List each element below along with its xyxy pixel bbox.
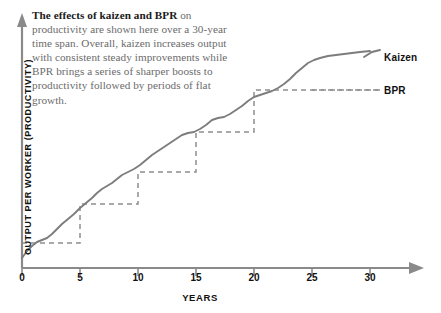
chart-caption: The effects of kaizen and BPR on product… [32,8,242,107]
series-line-bpr [22,90,378,243]
y-axis-title: OUTPUT PER WORKER (PRODUCTIVITY) [23,52,33,262]
x-tick-label-15: 15 [186,272,206,283]
x-tick-label-20: 20 [244,272,264,283]
x-tick-label-30: 30 [360,272,380,283]
caption-rest: on productivity are shown here over a 30… [32,9,227,106]
series-label-bpr: BPR [384,85,406,96]
series-label-kaizen: Kaizen [384,52,417,63]
x-tick-label-5: 5 [70,272,90,283]
x-tick-label-0: 0 [12,272,32,283]
x-tick-label-10: 10 [128,272,148,283]
chart-figure: The effects of kaizen and BPR on product… [0,0,441,313]
x-axis-title: YEARS [140,292,260,303]
x-tick-label-25: 25 [302,272,322,283]
caption-lead: The effects of kaizen and BPR [32,9,177,21]
